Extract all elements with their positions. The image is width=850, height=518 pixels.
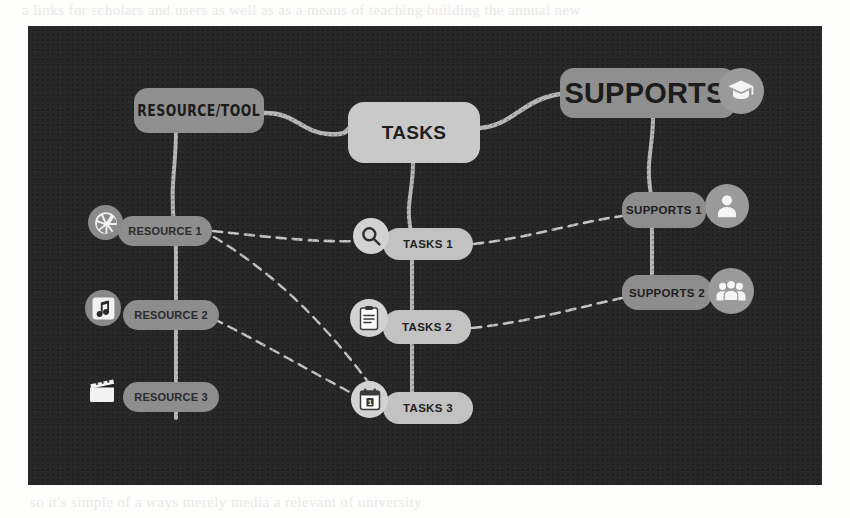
node-supports-2-label: SUPPORTS 2 — [629, 287, 705, 299]
music-note-icon — [85, 290, 121, 326]
node-supports-2[interactable]: SUPPORTS 2 — [622, 275, 712, 310]
node-resource-3-label: RESOURCE 3 — [134, 391, 208, 403]
node-tasks-1-label: TASKS 1 — [403, 238, 453, 250]
svg-text:1: 1 — [367, 398, 371, 407]
page-bleed-text-top: a links for scholars and users as well a… — [0, 2, 850, 19]
branch-tasks-label: TASKS — [382, 122, 446, 144]
branch-tasks[interactable]: TASKS — [348, 102, 480, 163]
search-icon — [353, 218, 389, 254]
diagram-canvas: RESOURCE/TOOL TASKS SUPPORTS RESOURCE 1 … — [28, 26, 822, 485]
clipboard-icon — [350, 299, 388, 337]
branch-resource-tool[interactable]: RESOURCE/TOOL — [134, 88, 264, 133]
node-resource-1[interactable]: RESOURCE 1 — [118, 216, 212, 246]
branch-supports-label: SUPPORTS — [564, 77, 725, 110]
node-supports-1-label: SUPPORTS 1 — [626, 204, 702, 216]
edge-tasks-1-to-supports-1-dashed — [474, 216, 622, 244]
person-icon — [705, 184, 749, 228]
edge-resource-tool-to-tasks — [263, 113, 350, 134]
node-resource-3[interactable]: RESOURCE 3 — [123, 382, 219, 412]
node-tasks-3-label: TASKS 3 — [403, 402, 453, 414]
node-tasks-1[interactable]: TASKS 1 — [383, 228, 473, 260]
page-bleed-text-bottom: so it's simple of a ways merely media a … — [0, 494, 850, 511]
edge-tasks-to-supports — [480, 94, 562, 128]
aperture-icon — [88, 205, 123, 240]
node-resource-2[interactable]: RESOURCE 2 — [123, 300, 219, 330]
branch-supports[interactable]: SUPPORTS — [560, 68, 736, 118]
clapperboard-icon — [83, 372, 121, 410]
graduation-cap-icon — [718, 68, 764, 114]
node-tasks-2-label: TASKS 2 — [402, 321, 452, 333]
branch-resource-tool-label: RESOURCE/TOOL — [138, 102, 261, 120]
edge-tasks-2-to-supports-2-dashed — [472, 298, 622, 328]
node-tasks-3[interactable]: TASKS 3 — [383, 392, 473, 424]
calendar-icon: 1 — [351, 381, 388, 418]
people-group-icon — [708, 268, 754, 314]
node-resource-1-label: RESOURCE 1 — [128, 225, 202, 237]
node-resource-2-label: RESOURCE 2 — [134, 309, 208, 321]
node-tasks-2[interactable]: TASKS 2 — [383, 310, 471, 344]
node-supports-1[interactable]: SUPPORTS 1 — [622, 192, 706, 228]
